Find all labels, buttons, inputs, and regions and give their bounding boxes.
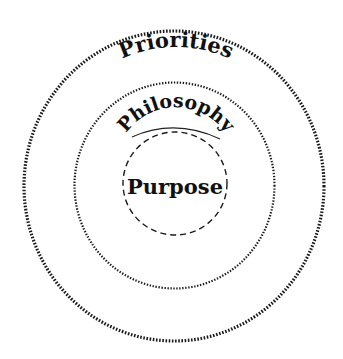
concentric-circles-diagram: Priorities Philosophy Purpose xyxy=(0,0,343,359)
philosophy-underline xyxy=(132,128,220,139)
priorities-label: Priorities xyxy=(115,27,238,63)
purpose-label: Purpose xyxy=(127,174,223,199)
philosophy-label: Philosophy xyxy=(112,89,240,136)
